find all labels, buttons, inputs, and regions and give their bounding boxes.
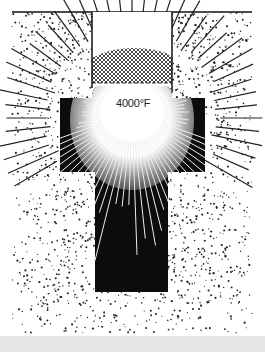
temperature-label: 4000°F bbox=[116, 97, 150, 109]
bottom-band bbox=[0, 336, 265, 352]
crust-layer bbox=[92, 48, 172, 83]
diagram-svg bbox=[0, 0, 265, 352]
diagram-figure: 4000°F bbox=[0, 0, 265, 352]
